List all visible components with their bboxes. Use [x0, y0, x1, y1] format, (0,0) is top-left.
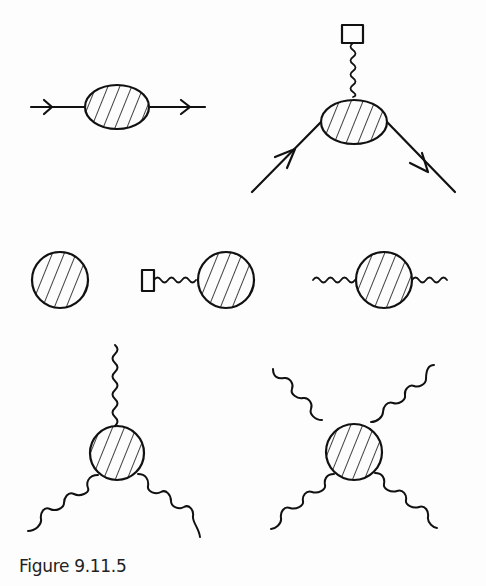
photon-wavy-line: [375, 473, 437, 528]
feynman-diagrams-figure: [0, 0, 486, 586]
photon-wavy-line: [113, 345, 118, 426]
figure-caption: Figure 9.11.5: [19, 556, 126, 576]
vertex-with-source-diagram: [252, 25, 455, 192]
hatched-blob: [326, 424, 382, 480]
photon-wavy-line: [154, 278, 196, 283]
hatched-blob: [32, 252, 88, 308]
photon-wavy-line: [313, 278, 355, 283]
fermion-line-in: [252, 122, 321, 192]
photon-wavy-line: [351, 43, 356, 97]
three-photon-vertex-diagram: [28, 345, 200, 537]
fermion-line-out: [387, 122, 455, 192]
four-photon-vertex-diagram: [271, 365, 437, 529]
hatched-blob: [321, 100, 387, 144]
photon-wavy-line: [138, 474, 200, 537]
fermion-propagator-diagram: [31, 85, 205, 129]
photon-self-energy-diagram: [313, 252, 447, 308]
external-source-square: [142, 270, 154, 291]
hatched-blob: [198, 252, 254, 308]
hatched-blob: [85, 85, 149, 129]
photon-wavy-line: [28, 475, 98, 531]
tadpole-with-source-diagram: [142, 252, 254, 308]
photon-wavy-line: [271, 474, 334, 529]
external-source-square: [342, 25, 363, 43]
vacuum-blob-diagram: [32, 252, 88, 308]
photon-wavy-line: [273, 369, 322, 420]
photon-wavy-line: [371, 365, 434, 422]
photon-wavy-line: [412, 278, 447, 283]
hatched-blob: [356, 252, 412, 308]
hatched-blob: [90, 426, 144, 480]
